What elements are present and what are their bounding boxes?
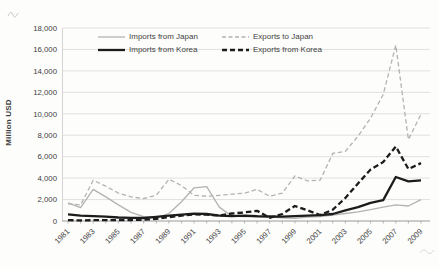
x-tick-label: 1999 bbox=[280, 227, 299, 246]
y-tick-label: 10,000 bbox=[33, 110, 58, 119]
legend-item-imports-from-japan: Imports from Japan bbox=[98, 32, 222, 41]
y-tick-label: 8,000 bbox=[37, 131, 57, 140]
legend-label: Exports to Japan bbox=[253, 32, 313, 41]
y-tick-label: 18,000 bbox=[33, 24, 58, 33]
legend-item-exports-from-korea: Exports from Korea bbox=[222, 45, 322, 54]
legend-line-sample-imports-from-japan bbox=[98, 34, 125, 40]
x-tick-label: 1991 bbox=[179, 227, 198, 246]
legend-label: Imports from Korea bbox=[129, 45, 197, 54]
scan-artifact-bottom-right bbox=[420, 250, 434, 254]
trade-line-chart-figure: 02,0004,0006,0008,00010,00012,00014,0001… bbox=[0, 0, 439, 269]
legend-label: Exports from Korea bbox=[253, 45, 322, 54]
series-line-imports-from-korea bbox=[68, 177, 421, 218]
x-tick-label: 2001 bbox=[305, 227, 324, 246]
legend-item-exports-to-japan: Exports to Japan bbox=[222, 32, 322, 41]
x-tick-label: 1995 bbox=[229, 227, 248, 246]
y-tick-label: 0 bbox=[53, 217, 58, 226]
y-tick-label: 14,000 bbox=[33, 67, 58, 76]
y-tick-label: 6,000 bbox=[37, 152, 57, 161]
x-tick-label: 2009 bbox=[406, 227, 425, 246]
legend-line-sample-exports-from-korea bbox=[222, 47, 249, 53]
legend-item-imports-from-korea: Imports from Korea bbox=[98, 45, 222, 54]
legend-line-sample-imports-from-korea bbox=[98, 47, 125, 53]
x-tick-label: 2005 bbox=[355, 227, 374, 246]
legend-line-sample-exports-to-japan bbox=[222, 34, 249, 40]
x-tick-label: 1985 bbox=[103, 227, 122, 246]
x-tick-label: 1993 bbox=[204, 227, 223, 246]
y-axis-title: Million USD bbox=[4, 85, 13, 161]
legend-label: Imports from Japan bbox=[129, 32, 198, 41]
x-tick-label: 1983 bbox=[78, 227, 97, 246]
x-tick-label: 1997 bbox=[254, 227, 273, 246]
y-tick-label: 16,000 bbox=[33, 45, 58, 54]
x-tick-label: 1987 bbox=[128, 227, 147, 246]
x-tick-label: 1989 bbox=[154, 227, 173, 246]
series-line-exports-to-japan bbox=[68, 45, 421, 205]
scan-artifact-top-left bbox=[8, 12, 18, 17]
y-tick-label: 12,000 bbox=[33, 88, 58, 97]
series-line-exports-from-korea bbox=[68, 147, 421, 221]
x-tick-label: 2003 bbox=[330, 227, 349, 246]
chart-legend: Imports from Japan Exports to Japan Impo… bbox=[98, 32, 322, 54]
y-tick-label: 4,000 bbox=[37, 174, 57, 183]
x-tick-label: 2007 bbox=[381, 227, 400, 246]
x-tick-label: 1981 bbox=[53, 227, 72, 246]
y-tick-label: 2,000 bbox=[37, 195, 57, 204]
